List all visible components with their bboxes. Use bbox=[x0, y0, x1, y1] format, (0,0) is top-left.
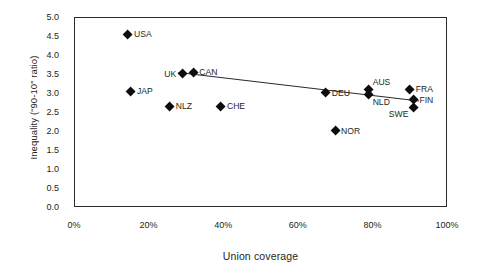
x-tick-label: 40% bbox=[201, 221, 245, 230]
x-tick-label: 80% bbox=[350, 221, 394, 230]
data-point-label: FRA bbox=[416, 85, 433, 94]
data-layer: USAJAPNLZUKCANCHEDEUNORAUSNLDFRAFINSWE bbox=[74, 17, 447, 207]
data-point-label: NOR bbox=[341, 127, 360, 136]
data-point-label: UK bbox=[164, 70, 176, 79]
data-point-label: JAP bbox=[137, 87, 153, 96]
x-tick-label: 0% bbox=[52, 221, 96, 230]
data-point-label: SWE bbox=[389, 110, 409, 119]
data-point-label: USA bbox=[134, 30, 152, 39]
data-point-label: CAN bbox=[199, 68, 217, 77]
data-point-label: AUS bbox=[373, 78, 391, 87]
data-point-label: NLZ bbox=[176, 102, 192, 111]
data-point-label: NLD bbox=[373, 98, 390, 107]
chart-figure: Inequality (“90-10” ratio) 0.00.51.01.52… bbox=[0, 0, 479, 275]
x-tick-label: 20% bbox=[127, 221, 171, 230]
x-tick-label: 60% bbox=[276, 221, 320, 230]
data-point-label: CHE bbox=[227, 102, 245, 111]
x-tick-label: 100% bbox=[425, 221, 469, 230]
data-point-label: DEU bbox=[332, 89, 350, 98]
data-point-label: FIN bbox=[419, 96, 433, 105]
x-axis-label: Union coverage bbox=[74, 250, 447, 262]
